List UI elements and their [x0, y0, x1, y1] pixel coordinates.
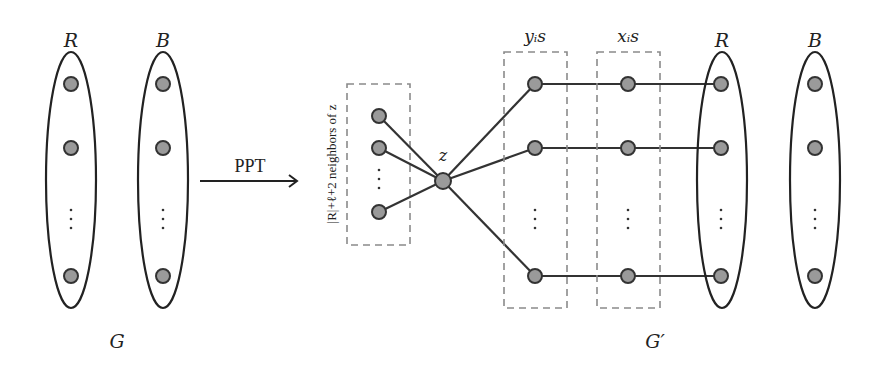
diagram-svg: R B G PPT |R|+ℓ+2 n — [0, 0, 880, 365]
node — [808, 77, 822, 91]
vertical-ellipsis-icon — [534, 209, 537, 230]
right-set-r-label: R — [714, 29, 729, 51]
edge — [443, 148, 535, 181]
ppt-transform-arrow: PPT — [200, 156, 297, 187]
left-graph: R B G — [46, 29, 188, 352]
neighbor-node — [372, 141, 386, 155]
vertical-ellipsis-icon — [162, 209, 165, 230]
node — [64, 269, 78, 283]
xis-label: xᵢs — [617, 26, 639, 46]
node — [156, 77, 170, 91]
x-node — [621, 269, 635, 283]
neighbor-node — [372, 109, 386, 123]
left-set-b: B — [138, 29, 188, 308]
diagram-canvas: R B G PPT |R|+ℓ+2 n — [0, 0, 880, 365]
vertical-ellipsis-icon — [814, 209, 817, 230]
edge — [379, 116, 443, 181]
node — [714, 269, 728, 283]
node — [64, 77, 78, 91]
node — [714, 141, 728, 155]
left-set-r-label: R — [63, 29, 78, 51]
z-node — [435, 173, 451, 189]
neighbor-node — [372, 205, 386, 219]
edge — [379, 181, 443, 212]
ppt-label: PPT — [234, 156, 265, 176]
x-node — [621, 141, 635, 155]
node — [808, 141, 822, 155]
right-set-b: B — [790, 29, 840, 308]
vertical-ellipsis-icon — [720, 209, 723, 230]
vertical-ellipsis-icon — [627, 209, 630, 230]
y-node — [528, 269, 542, 283]
right-graph: |R|+ℓ+2 neighbors of z z yᵢs — [324, 26, 840, 352]
edge — [443, 181, 535, 276]
node — [156, 141, 170, 155]
left-set-r: R — [46, 29, 96, 308]
z-label: z — [438, 146, 448, 165]
right-graph-label: G′ — [645, 330, 665, 352]
node — [156, 269, 170, 283]
node — [64, 141, 78, 155]
x-node — [621, 77, 635, 91]
edge — [443, 84, 535, 181]
right-set-r: R — [697, 29, 747, 308]
y-node — [528, 141, 542, 155]
vertical-ellipsis-icon — [70, 209, 73, 230]
left-graph-label: G — [109, 330, 124, 352]
edge — [379, 148, 443, 181]
node — [808, 269, 822, 283]
neighbors-label: |R|+ℓ+2 neighbors of z — [324, 104, 339, 223]
vertical-ellipsis-icon — [378, 169, 381, 190]
yis-label: yᵢs — [523, 26, 546, 46]
left-set-b-label: B — [155, 29, 170, 51]
y-node — [528, 77, 542, 91]
right-set-b-label: B — [807, 29, 822, 51]
node — [714, 77, 728, 91]
